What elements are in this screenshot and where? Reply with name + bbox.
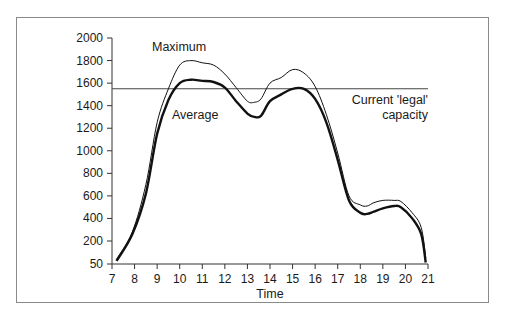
x-tick-label: 10 [173, 272, 187, 286]
y-tick-label: 200 [83, 234, 103, 248]
series-average-line [117, 80, 426, 263]
capacity-label-line1: Current 'legal' [352, 93, 428, 107]
average-label: Average [172, 108, 218, 122]
y-tick-label: 2000 [76, 31, 103, 45]
x-tick-label: 12 [218, 272, 232, 286]
y-tick-label: 1000 [76, 144, 103, 158]
x-tick-label: 14 [263, 272, 277, 286]
line-chart: 20001800160014001200100080060040020050 7… [0, 0, 506, 330]
series-maximum-line [117, 61, 426, 260]
y-tick-label: 1400 [76, 99, 103, 113]
x-tick-label: 17 [331, 272, 345, 286]
x-tick-label: 13 [241, 272, 255, 286]
y-tick-label: 1800 [76, 54, 103, 68]
x-tick-label: 15 [286, 272, 300, 286]
y-tick-label: 400 [83, 211, 103, 225]
x-tick-label: 21 [421, 272, 435, 286]
x-tick-label: 9 [154, 272, 161, 286]
x-tick-label: 20 [399, 272, 413, 286]
x-axis: 789101112131415161718192021 [109, 264, 435, 286]
x-tick-label: 18 [354, 272, 368, 286]
maximum-label: Maximum [152, 40, 206, 54]
y-tick-label: 1600 [76, 76, 103, 90]
capacity-label-line2: capacity [382, 108, 429, 122]
x-tick-label: 16 [308, 272, 322, 286]
x-tick-label: 19 [376, 272, 390, 286]
y-axis: 20001800160014001200100080060040020050 [76, 31, 112, 271]
x-tick-label: 7 [109, 272, 116, 286]
series-lines [117, 61, 426, 263]
x-tick-label: 8 [131, 272, 138, 286]
y-tick-label: 1200 [76, 121, 103, 135]
y-tick-label: 600 [83, 189, 103, 203]
x-axis-title: Time [256, 287, 283, 301]
y-tick-label: 50 [90, 257, 104, 271]
x-tick-label: 11 [196, 272, 209, 286]
y-tick-label: 800 [83, 166, 103, 180]
